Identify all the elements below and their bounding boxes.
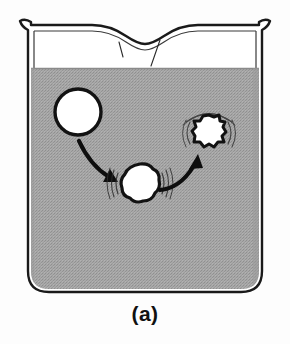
- figure-container: (a): [0, 0, 290, 344]
- beaker-diagram: [0, 0, 290, 344]
- collapsing-bubble-body: [192, 115, 226, 147]
- smooth-bubble-body: [55, 89, 101, 135]
- liquid-shading-right: [253, 68, 259, 294]
- oscillating-bubble-body: [121, 164, 160, 202]
- smooth-bubble: [55, 89, 101, 135]
- figure-caption: (a): [0, 300, 290, 328]
